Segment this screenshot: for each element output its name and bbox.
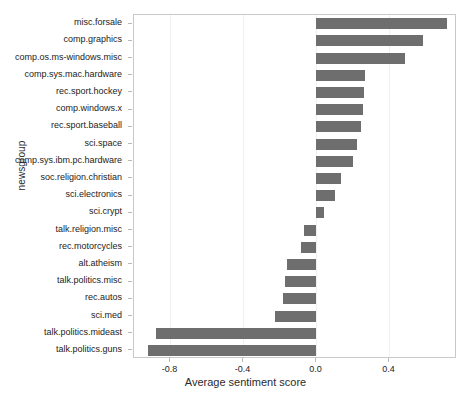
y-tick-label: talk.politics.misc [57,276,122,285]
bar [316,190,334,201]
y-tick-mark [128,315,132,316]
y-tick-label: talk.politics.guns [56,345,122,354]
y-tick-label: comp.windows.x [56,104,122,113]
bar [316,104,362,115]
y-tick-mark [128,143,132,144]
bar [275,311,316,322]
bar [283,293,317,304]
bar [304,225,316,236]
y-axis-tick-labels: misc.forsalecomp.graphicscomp.os.ms-wind… [0,14,128,358]
y-tick-label: misc.forsale [74,18,122,27]
y-tick-mark [128,281,132,282]
y-tick-mark [128,177,132,178]
y-tick-mark [128,298,132,299]
bar [285,276,317,287]
bar [156,328,316,339]
x-tick-mark [242,358,243,362]
y-tick-label: talk.religion.misc [55,225,122,234]
y-tick-mark [128,57,132,58]
chart-figure: newsgroup misc.forsalecomp.graphicscomp.… [0,0,463,398]
y-tick-mark [128,40,132,41]
bar [316,139,356,150]
bar [316,207,324,218]
y-tick-label: comp.os.ms-windows.misc [15,53,122,62]
bar [316,156,352,167]
y-tick-label: sci.med [91,311,122,320]
y-tick-label: rec.sport.baseball [51,121,122,130]
y-tick-mark [128,126,132,127]
y-tick-label: alt.atheism [78,259,122,268]
x-tick-mark [315,358,316,362]
y-tick-mark [128,91,132,92]
y-tick-label: talk.politics.mideast [44,328,122,337]
bar [148,345,317,356]
y-tick-mark [128,109,132,110]
bar [301,242,316,253]
y-tick-mark [128,74,132,75]
y-tick-mark [128,332,132,333]
bar [316,87,364,98]
y-tick-label: soc.religion.christian [40,173,122,182]
x-tick-mark [388,358,389,362]
y-tick-mark [128,349,132,350]
y-tick-label: rec.autos [85,293,122,302]
x-tick-label: 0.4 [382,364,395,374]
bar [316,18,446,29]
y-tick-label: sci.crypt [89,207,122,216]
x-axis-title-text: Average sentiment score [185,376,306,388]
plot-area [133,14,456,358]
y-tick-mark [128,246,132,247]
x-tick-label: -0.8 [162,364,178,374]
y-tick-label: comp.sys.mac.hardware [24,70,122,79]
bars-container [134,15,455,357]
bar [316,173,341,184]
x-gridline [389,15,390,357]
x-tick-label: 0.0 [309,364,322,374]
y-tick-label: comp.graphics [63,35,122,44]
y-tick-label: rec.sport.hockey [56,87,122,96]
y-tick-label: comp.sys.ibm.pc.hardware [15,156,122,165]
bar [316,70,365,81]
y-tick-mark [128,23,132,24]
x-axis-title: Average sentiment score [0,376,463,388]
bar [316,53,405,64]
x-gridline [316,15,317,357]
x-gridline [243,15,244,357]
x-gridline [170,15,171,357]
bar [316,121,360,132]
y-tick-label: sci.space [84,139,122,148]
bar [316,35,423,46]
bar [287,259,317,270]
y-tick-label: rec.motorcycles [59,242,122,251]
x-tick-mark [169,358,170,362]
y-tick-mark [128,195,132,196]
y-tick-label: sci.electronics [65,190,122,199]
y-tick-mark [128,160,132,161]
x-tick-label: -0.4 [235,364,251,374]
y-tick-mark [128,229,132,230]
y-tick-mark [128,263,132,264]
y-tick-mark [128,212,132,213]
